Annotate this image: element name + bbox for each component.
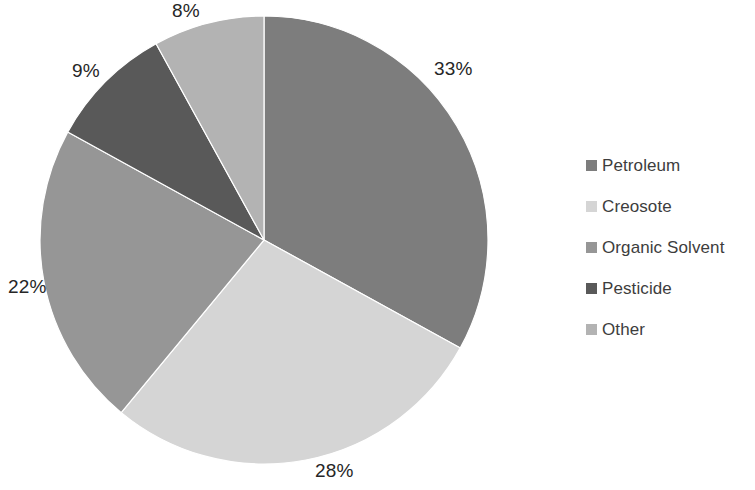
legend-swatch-icon <box>586 201 597 212</box>
pie-label-pesticide: 9% <box>72 60 100 82</box>
legend-item-label: Organic Solvent <box>602 238 724 258</box>
legend-item-pesticide[interactable]: Pesticide <box>586 268 755 309</box>
legend-item-petroleum[interactable]: Petroleum <box>586 145 755 186</box>
pie-chart: 33%28%22%9%8% PetroleumCreosoteOrganic S… <box>0 0 755 490</box>
legend-swatch-icon <box>586 283 597 294</box>
pie-label-creosote: 28% <box>315 460 354 482</box>
chart-legend: PetroleumCreosoteOrganic SolventPesticid… <box>586 145 755 350</box>
pie-label-other: 8% <box>172 0 200 22</box>
legend-item-label: Creosote <box>602 197 672 217</box>
legend-item-label: Pesticide <box>602 279 672 299</box>
pie-label-petroleum: 33% <box>434 58 473 80</box>
legend-swatch-icon <box>586 160 597 171</box>
legend-swatch-icon <box>586 324 597 335</box>
legend-item-label: Other <box>602 320 645 340</box>
legend-item-label: Petroleum <box>602 156 680 176</box>
legend-item-other[interactable]: Other <box>586 309 755 350</box>
legend-item-organic-solvent[interactable]: Organic Solvent <box>586 227 755 268</box>
legend-swatch-icon <box>586 242 597 253</box>
pie-label-organic-solvent: 22% <box>8 276 47 298</box>
legend-item-creosote[interactable]: Creosote <box>586 186 755 227</box>
